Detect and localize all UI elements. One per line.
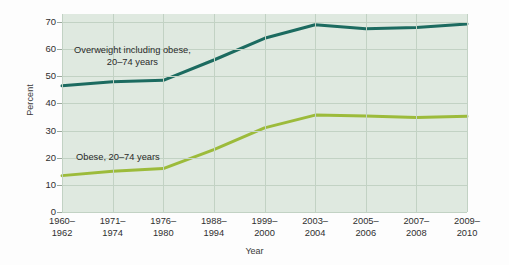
x-axis-tick-label-line: 2006	[344, 228, 388, 240]
y-axis-tick-label: 60	[34, 44, 56, 54]
annotation-line: Obese, 20–74 years	[76, 152, 160, 164]
y-axis-tick-label: 70	[34, 17, 56, 27]
x-axis-tick-label-line: 2004	[293, 228, 337, 240]
gridline-vertical	[214, 14, 215, 212]
y-axis-tick-label: 50	[34, 71, 56, 81]
x-axis-tick-label-line: 1976–	[141, 216, 185, 228]
x-axis-tick-label-line: 2005–	[344, 216, 388, 228]
x-axis-tick-label-line: 2007–	[394, 216, 438, 228]
gridline-vertical	[62, 14, 63, 212]
y-axis-tick-label: 10	[34, 180, 56, 190]
x-axis-tick-label-line: 1988–	[192, 216, 236, 228]
x-axis-title: Year	[0, 246, 509, 256]
annotation-obese: Obese, 20–74 years	[76, 152, 160, 164]
x-axis-tick-label: 2003–2004	[293, 216, 337, 239]
y-axis-tick-label: 30	[34, 126, 56, 136]
x-axis-tick-label: 2009–2010	[445, 216, 489, 239]
y-axis-tick-label: 20	[34, 153, 56, 163]
annotation-overweight: Overweight including obese,20–74 years	[74, 45, 191, 68]
gridline-vertical	[416, 14, 417, 212]
x-axis-tick-label-line: 1962	[40, 228, 84, 240]
gridline-vertical	[265, 14, 266, 212]
x-axis-tick-label-line: 1994	[192, 228, 236, 240]
plot-area	[62, 14, 467, 212]
x-axis-tick-label: 1999–2000	[243, 216, 287, 239]
x-axis-tick-label: 2005–2006	[344, 216, 388, 239]
x-axis-tick-label: 1960–1962	[40, 216, 84, 239]
gridline-vertical	[315, 14, 316, 212]
x-axis-tick-label-line: 1974	[91, 228, 135, 240]
y-axis-tick-label: 40	[34, 98, 56, 108]
x-axis-tick-label-line: 2008	[394, 228, 438, 240]
x-axis-tick-label-line: 1999–	[243, 216, 287, 228]
gridline-horizontal	[62, 212, 467, 213]
annotation-line: 20–74 years	[74, 57, 191, 69]
gridline-vertical	[163, 14, 164, 212]
x-axis-tick-label-line: 1971–	[91, 216, 135, 228]
obesity-trend-chart: Percent 010203040506070 1960–19621971–19…	[0, 0, 509, 265]
y-axis-tick-mark	[57, 212, 62, 213]
x-axis-tick-label: 1971–1974	[91, 216, 135, 239]
x-axis-tick-label: 1988–1994	[192, 216, 236, 239]
gridline-vertical	[366, 14, 367, 212]
x-axis-tick-label: 1976–1980	[141, 216, 185, 239]
x-axis-tick-label-line: 2000	[243, 228, 287, 240]
gridline-vertical	[113, 14, 114, 212]
x-axis-tick-label-line: 1960–	[40, 216, 84, 228]
annotation-line: Overweight including obese,	[74, 45, 191, 57]
gridline-vertical	[467, 14, 468, 212]
x-axis-tick-label-line: 2010	[445, 228, 489, 240]
x-axis-tick-label: 2007–2008	[394, 216, 438, 239]
x-axis-tick-label-line: 2003–	[293, 216, 337, 228]
x-axis-tick-label-line: 1980	[141, 228, 185, 240]
x-axis-tick-label-line: 2009–	[445, 216, 489, 228]
